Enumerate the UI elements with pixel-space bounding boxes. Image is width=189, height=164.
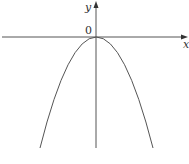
graph-figure: y 0 x <box>0 0 189 164</box>
y-axis-arrow-icon <box>94 1 99 8</box>
origin-label: 0 <box>85 24 92 37</box>
x-axis-label: x <box>183 38 189 51</box>
y-axis-label: y <box>84 1 92 14</box>
